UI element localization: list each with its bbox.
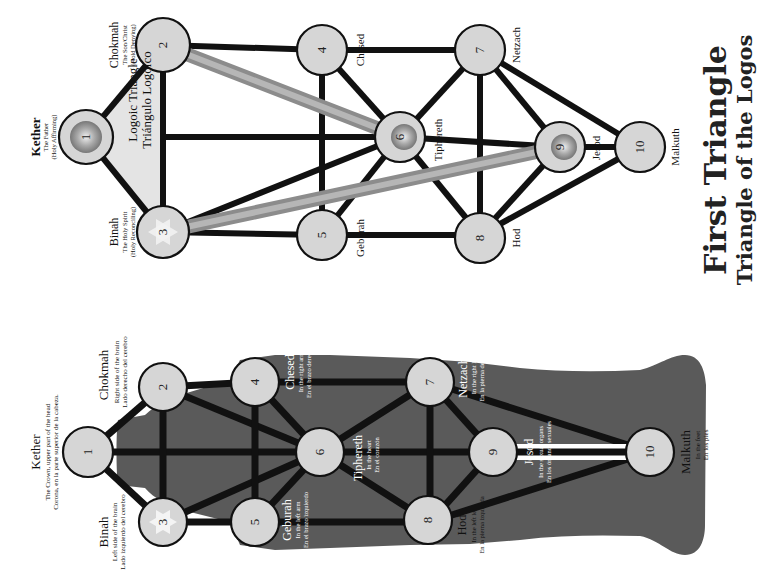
top-node-1: 1 xyxy=(59,110,113,164)
svg-text:En los órganos sexuales: En los órganos sexuales xyxy=(545,420,552,483)
bottom-node-2: 2 xyxy=(139,363,187,411)
svg-text:9: 9 xyxy=(552,144,567,151)
svg-text:9: 9 xyxy=(485,449,500,456)
tree-of-life-figure: 1 2 3 4 5 6 7 8 xyxy=(0,0,766,577)
top-node-10: 10 xyxy=(615,122,665,172)
svg-text:The Son/Christ: The Son/Christ xyxy=(121,25,128,65)
svg-text:In the feet: In the feet xyxy=(694,431,702,459)
hod-label: Hod xyxy=(455,515,469,536)
hod-label: Hod xyxy=(510,228,522,247)
svg-text:In the left leg: In the left leg xyxy=(470,507,477,543)
svg-text:In the heart: In the heart xyxy=(365,440,372,470)
logoic-triangle-label-es: Triángulo Logoico xyxy=(139,51,154,148)
chesed-label: Chesed xyxy=(354,33,366,66)
bottom-node-10: 10 xyxy=(626,428,674,476)
geburah-label: Geburah xyxy=(354,219,366,257)
jesod-label: Jesod xyxy=(590,135,602,160)
svg-text:5: 5 xyxy=(247,519,262,526)
bottom-node-8: 8 xyxy=(404,496,452,544)
svg-text:En la pierna izquierda: En la pierna izquierda xyxy=(478,496,485,553)
svg-text:The Father: The Father xyxy=(42,122,49,151)
svg-text:Corona, en la parte superior d: Corona, en la parte superior de la cabez… xyxy=(52,394,60,510)
title-main: First Triangle xyxy=(698,45,733,275)
bottom-diagram: 1 2 3 4 5 6 7 8 xyxy=(28,336,710,570)
top-node-6: 6 xyxy=(375,112,425,162)
chokmah-label: Chokmah xyxy=(107,22,121,69)
svg-text:2: 2 xyxy=(155,42,170,49)
svg-text:The Holy Spirit: The Holy Spirit xyxy=(121,211,128,252)
top-node-3: 3 xyxy=(137,206,189,258)
svg-text:Right side of the brain: Right side of the brain xyxy=(113,340,121,403)
geburah-label: Geburah xyxy=(280,499,294,540)
malkuth-label: Malkuth xyxy=(678,429,693,474)
bottom-node-5: 5 xyxy=(231,498,279,546)
svg-text:The Crown, upper part of the h: The Crown, upper part of the head xyxy=(44,403,52,500)
logoic-triangle-label: Logoic Triangle xyxy=(125,58,140,142)
svg-text:Lado derecho del cerebro: Lado derecho del cerebro xyxy=(121,336,129,408)
top-node-9: 9 xyxy=(535,122,585,172)
netzach-label: Netzach xyxy=(456,358,470,397)
binah-label: Binah xyxy=(96,516,111,548)
top-node-8: 8 xyxy=(455,213,505,263)
svg-text:In the right arm: In the right arm xyxy=(297,352,304,393)
svg-text:In the left arm: In the left arm xyxy=(294,502,301,539)
svg-text:4: 4 xyxy=(314,46,329,53)
bottom-node-4: 4 xyxy=(231,358,279,406)
title-sub: Triangle of the Logos xyxy=(732,35,757,286)
svg-text:1: 1 xyxy=(78,134,93,141)
svg-text:10: 10 xyxy=(642,446,657,459)
jesod-label: Jesod xyxy=(522,439,536,466)
bottom-node-1: 1 xyxy=(63,427,113,477)
bottom-node-9: 9 xyxy=(469,428,517,476)
chesed-label: Chesed xyxy=(283,354,297,389)
tiphereth-label: Tiphereth xyxy=(351,435,365,481)
svg-text:Lado izquierdo del cerebro: Lado izquierdo del cerebro xyxy=(119,494,127,570)
svg-text:10: 10 xyxy=(632,141,647,154)
svg-text:3: 3 xyxy=(155,229,170,236)
svg-text:In the right leg: In the right leg xyxy=(470,355,477,394)
svg-text:(Hold Denying): (Hold Denying) xyxy=(129,24,137,65)
svg-text:(Holy Reconciling): (Holy Reconciling) xyxy=(129,207,137,257)
netzach-label: Netzach xyxy=(510,26,522,63)
svg-text:8: 8 xyxy=(420,517,435,524)
malkuth-label: Malkuth xyxy=(669,128,681,166)
svg-text:7: 7 xyxy=(472,46,487,53)
svg-text:(Holy Affirming): (Holy Affirming) xyxy=(50,115,58,160)
kether-label: Kether xyxy=(28,434,43,470)
chokmah-label: Chokmah xyxy=(96,349,111,400)
top-node-4: 4 xyxy=(297,25,347,75)
tiphereth-label: Tiphereth xyxy=(432,118,444,161)
svg-text:7: 7 xyxy=(422,378,437,385)
svg-text:Left side of the brain: Left side of the brain xyxy=(111,502,119,561)
svg-text:6: 6 xyxy=(312,448,327,455)
svg-text:2: 2 xyxy=(155,384,170,391)
svg-text:3: 3 xyxy=(155,519,170,526)
svg-text:In the sexual organs: In the sexual organs xyxy=(537,426,544,479)
svg-text:8: 8 xyxy=(472,235,487,242)
top-diagram: 1 2 3 4 5 6 7 8 xyxy=(28,18,681,263)
svg-text:En los pies: En los pies xyxy=(702,429,710,460)
svg-text:6: 6 xyxy=(392,133,407,140)
kether-label: Kether xyxy=(28,117,43,156)
svg-text:1: 1 xyxy=(80,449,95,456)
top-node-7: 7 xyxy=(455,25,505,75)
svg-text:En el corazón: En el corazón xyxy=(373,436,380,472)
svg-text:5: 5 xyxy=(314,232,329,239)
svg-text:En el brazo derecho: En el brazo derecho xyxy=(305,346,312,398)
bottom-node-6: 6 xyxy=(296,428,344,476)
svg-text:En el brazo izquierdo: En el brazo izquierdo xyxy=(302,492,309,548)
top-node-5: 5 xyxy=(297,210,347,260)
binah-label: Binah xyxy=(107,218,121,247)
bottom-node-7: 7 xyxy=(406,358,454,406)
bottom-node-3: 3 xyxy=(139,498,187,546)
svg-text:4: 4 xyxy=(247,378,262,385)
title-block: First Triangle Triangle of the Logos xyxy=(698,35,757,286)
svg-text:En la pierna derecha: En la pierna derecha xyxy=(478,348,485,401)
